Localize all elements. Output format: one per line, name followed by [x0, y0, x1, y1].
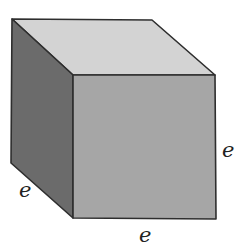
right-edge-label: e — [222, 140, 234, 161]
bottom-edge-label: e — [139, 225, 151, 246]
left-edge-label: e — [19, 180, 31, 201]
cube-diagram — [0, 0, 242, 247]
cube-front-face — [73, 75, 216, 219]
